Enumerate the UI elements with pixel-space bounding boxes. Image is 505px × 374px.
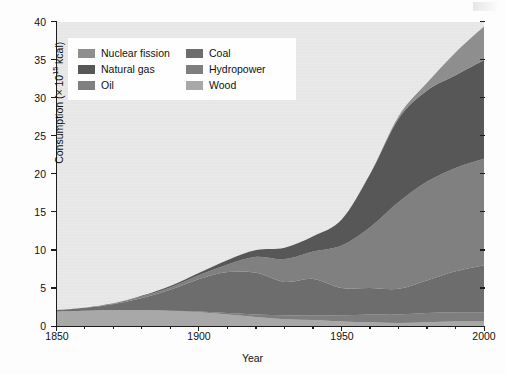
scan-artifact bbox=[473, 2, 499, 11]
y-tick-label-35: 35 bbox=[12, 55, 46, 65]
y-axis-title-suffix: kcal) bbox=[53, 42, 65, 67]
y-tick-label-25: 25 bbox=[12, 131, 46, 141]
y-axis-title: Consumption (× 1015 kcal) bbox=[51, 0, 65, 208]
y-axis-title-exponent: 15 bbox=[51, 67, 60, 75]
legend-label-coal: Coal bbox=[209, 48, 231, 59]
legend-swatch-natural-gas bbox=[78, 65, 95, 74]
y-tick-right-40 bbox=[480, 21, 485, 22]
legend-swatch-hydropower bbox=[186, 65, 203, 74]
x-tick-1910 bbox=[227, 326, 228, 329]
y-tick-label-0: 0 bbox=[12, 321, 46, 331]
y-tick-right-15 bbox=[480, 211, 485, 212]
x-tick-1990 bbox=[455, 326, 456, 329]
legend-item-coal: Coal bbox=[186, 45, 296, 61]
x-tick-1970 bbox=[398, 326, 399, 329]
legend-item-oil: Oil bbox=[78, 77, 186, 93]
y-tick-right-5 bbox=[480, 287, 485, 288]
legend-label-nuclear-fission: Nuclear fission bbox=[101, 48, 170, 59]
legend-item-wood: Wood bbox=[186, 77, 296, 93]
legend-swatch-nuclear-fission bbox=[78, 49, 95, 58]
legend-swatch-wood bbox=[186, 81, 203, 90]
y-tick-label-30: 30 bbox=[12, 93, 46, 103]
y-tick-right-25 bbox=[480, 135, 485, 136]
y-tick-right-30 bbox=[480, 97, 485, 98]
y-tick-15 bbox=[51, 211, 56, 212]
legend-item-hydropower: Hydropower bbox=[186, 61, 296, 77]
legend-label-hydropower: Hydropower bbox=[209, 64, 266, 75]
x-tick-1930 bbox=[284, 326, 285, 329]
y-tick-right-20 bbox=[480, 173, 485, 174]
x-tick-label-1950: 1950 bbox=[319, 331, 365, 342]
legend-label-oil: Oil bbox=[101, 80, 114, 91]
legend: Nuclear fission Coal Natural gas Hydropo… bbox=[68, 38, 296, 100]
y-tick-right-35 bbox=[480, 59, 485, 60]
x-axis-title: Year bbox=[0, 352, 505, 364]
x-tick-1860 bbox=[84, 326, 85, 329]
legend-swatch-coal bbox=[186, 49, 203, 58]
x-tick-label-1900: 1900 bbox=[176, 331, 222, 342]
legend-label-natural-gas: Natural gas bbox=[101, 64, 155, 75]
y-tick-label-5: 5 bbox=[12, 283, 46, 293]
x-tick-label-2000: 2000 bbox=[461, 331, 505, 342]
x-tick-1880 bbox=[141, 326, 142, 329]
x-tick-1960 bbox=[369, 326, 370, 329]
y-tick-label-15: 15 bbox=[12, 207, 46, 217]
y-tick-right-10 bbox=[480, 249, 485, 250]
x-tick-1870 bbox=[113, 326, 114, 329]
x-tick-1980 bbox=[426, 326, 427, 329]
y-tick-label-10: 10 bbox=[12, 245, 46, 255]
x-axis-line bbox=[56, 326, 485, 327]
y-tick-10 bbox=[51, 249, 56, 250]
legend-label-wood: Wood bbox=[209, 80, 236, 91]
y-tick-label-40: 40 bbox=[12, 17, 46, 27]
x-tick-label-1850: 1850 bbox=[34, 331, 80, 342]
y-tick-label-20: 20 bbox=[12, 169, 46, 179]
legend-swatch-oil bbox=[78, 81, 95, 90]
figure-root: 40 35 30 25 20 15 10 5 0 1850 1900 1950 … bbox=[0, 0, 505, 374]
legend-item-nuclear-fission: Nuclear fission bbox=[78, 45, 186, 61]
legend-grid: Nuclear fission Coal Natural gas Hydropo… bbox=[68, 38, 296, 100]
x-tick-1890 bbox=[170, 326, 171, 329]
y-tick-5 bbox=[51, 287, 56, 288]
x-tick-1940 bbox=[312, 326, 313, 329]
legend-item-natural-gas: Natural gas bbox=[78, 61, 186, 77]
x-tick-1920 bbox=[255, 326, 256, 329]
y-axis-title-prefix: Consumption (× 10 bbox=[53, 75, 65, 164]
